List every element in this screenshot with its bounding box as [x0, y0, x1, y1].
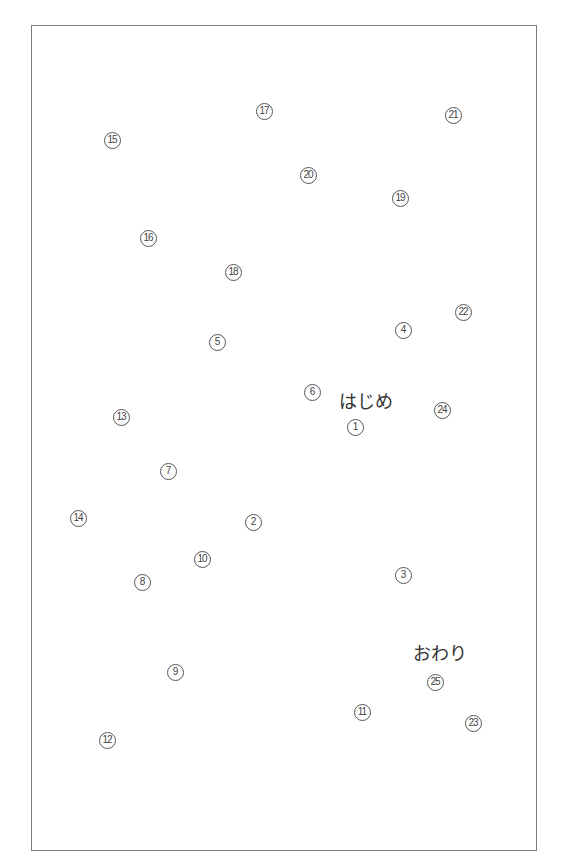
circled-number-16: 16	[140, 230, 157, 247]
circled-number-8: 8	[134, 574, 151, 591]
circled-number-20: 20	[300, 167, 317, 184]
circled-number-11: 11	[354, 704, 371, 721]
circled-number-23: 23	[465, 715, 482, 732]
circled-number-13: 13	[113, 409, 130, 426]
circled-number-22: 22	[455, 304, 472, 321]
circled-number-4: 4	[395, 322, 412, 339]
circled-number-24: 24	[434, 402, 451, 419]
circled-number-6: 6	[304, 384, 321, 401]
circled-number-14: 14	[70, 510, 87, 527]
puzzle-frame	[31, 25, 537, 851]
circled-number-25: 25	[427, 674, 444, 691]
circled-number-2: 2	[245, 514, 262, 531]
circled-number-17: 17	[256, 103, 273, 120]
circled-number-21: 21	[445, 107, 462, 124]
circled-number-12: 12	[99, 732, 116, 749]
circled-number-18: 18	[225, 264, 242, 281]
circled-number-1: 1	[347, 419, 364, 436]
circled-number-7: 7	[160, 463, 177, 480]
circled-number-9: 9	[167, 664, 184, 681]
circled-number-10: 10	[194, 551, 211, 568]
circled-number-19: 19	[392, 190, 409, 207]
end-label: おわり	[413, 639, 467, 665]
circled-number-15: 15	[104, 132, 121, 149]
circled-number-5: 5	[209, 334, 226, 351]
circled-number-3: 3	[395, 567, 412, 584]
start-label: はじめ	[339, 387, 393, 413]
